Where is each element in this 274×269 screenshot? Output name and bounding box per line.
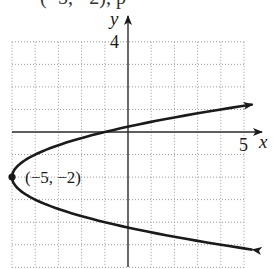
vertex-point: [8, 173, 15, 180]
graph-figure: (−5, −2), p (−5, −2) y 4 5 x: [0, 0, 274, 269]
x-axis-label: x: [258, 131, 268, 152]
y-tick-label: 4: [110, 32, 119, 52]
parabola-chart: (−5, −2) y 4 5 x: [0, 0, 274, 269]
y-axis-label: y: [108, 8, 119, 29]
x-tick-label: 5: [239, 135, 248, 155]
vertex-label: (−5, −2): [25, 168, 81, 187]
